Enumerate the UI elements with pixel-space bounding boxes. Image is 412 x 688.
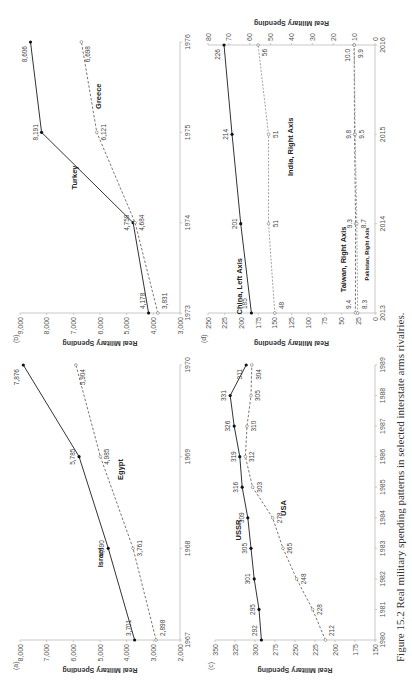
data-point [229,394,232,397]
data-point [155,639,158,642]
series-name-label: Taiwan, Right Axis [339,226,348,292]
y-tick-label: 350 [212,644,219,656]
y-tick-label: 8,000 [17,644,24,662]
y-axis-title: Real Military Spending [254,339,329,347]
y-tick-label: 200 [332,644,339,656]
y-tick-label: 7,000 [43,644,50,662]
data-point [230,133,233,136]
data-point [250,364,253,367]
y-tick-label: 150 [372,644,379,656]
y-tick-label: 225 [221,317,228,329]
data-point [246,516,249,519]
y-tick-label: 5,000 [123,317,130,335]
x-tick-label: 1970 [184,357,191,373]
series-name-label: China, Left Axis [235,258,244,314]
data-point [95,131,98,134]
data-point [77,455,80,458]
data-point [245,363,248,366]
figure-caption: Figure 15.2 Real military spending patte… [394,312,406,662]
data-point [295,577,298,580]
x-tick-label: 1981 [379,602,386,618]
data-value-label: 305 [254,390,261,401]
data-value-label: 9.8 [345,129,352,138]
x-tick-label: 1967 [184,632,191,648]
x-tick-label: 2015 [379,126,386,142]
y-right-tick-label: 60 [246,33,253,41]
data-value-label: 295 [249,604,256,615]
y-tick-label: 3,000 [177,317,184,335]
y-tick-label: 6,000 [70,644,77,662]
data-point [156,312,159,315]
x-tick-label: 1987 [379,418,386,434]
data-value-label: 4,178 [139,292,146,309]
data-point [267,133,270,136]
data-point [132,547,135,550]
y-tick-label: 4,000 [123,644,130,662]
data-value-label: 3,761 [136,540,143,557]
series-name-label: India, Right Axis [286,118,295,176]
x-tick-label: 1976 [184,34,191,50]
data-value-label: 8,606 [21,46,28,63]
figure-15-2: 2,0003,0004,0005,0006,0007,0008,00019671… [0,0,412,688]
data-point [244,455,247,458]
data-point [133,638,136,641]
y-right-tick-label: 70 [225,33,232,41]
data-point [257,608,260,611]
panel-b-turkey-greece: 3,0004,0005,0006,0007,0008,0009,00019731… [12,34,191,347]
data-value-label: 48 [278,301,285,309]
panel-d-china-india-taiwan-pakistan: 0255075100125150175200225250010203040506… [200,19,386,347]
data-value-label: 214 [222,129,229,140]
data-point [324,639,327,642]
data-point [355,222,358,225]
data-value-label: 326 [224,420,231,431]
x-tick-label: 1983 [379,540,386,556]
data-point [250,311,253,314]
series-name-label: Israel [96,548,105,568]
data-value-label: 9.9 [357,49,364,58]
data-value-label: 304 [255,369,262,380]
data-point [107,547,110,550]
data-value-label: 4,684 [138,214,145,231]
series-line [230,365,261,640]
data-point [239,222,242,225]
panel-tag: (b) [12,334,20,343]
data-point [273,312,276,315]
data-value-label: 248 [300,573,307,584]
data-value-label: 9.5 [358,129,365,138]
x-tick-label: 1980 [379,632,386,648]
data-value-label: 310 [250,420,257,431]
data-value-label: 10.0 [344,49,351,62]
data-value-label: 5,785 [69,448,76,465]
y-tick-label: 8,000 [43,317,50,335]
data-point [257,44,260,47]
data-value-label: 8.7 [360,219,367,228]
x-tick-label: 1975 [184,124,191,140]
data-point [271,516,274,519]
data-value-label: 301 [244,573,251,584]
data-value-label: 303 [256,481,263,492]
y-right-tick-label: 30 [309,33,316,41]
data-point [251,486,254,489]
data-point [74,364,77,367]
data-value-label: 228 [316,604,323,615]
x-tick-label: 1968 [184,540,191,556]
series-line [76,365,156,640]
data-value-label: 292 [251,625,258,636]
data-point [29,40,32,43]
panel-c-ussr-usa: 1501752002252502753003253501980198119821… [207,357,386,674]
y-tick-label: 250 [292,644,299,656]
data-value-label: 201 [231,218,238,229]
data-value-label: 4,758 [123,214,130,231]
data-point [99,455,102,458]
data-value-label: 312 [248,451,255,462]
data-value-label: 212 [328,625,335,636]
y-axis-title: Real Military Spending [62,339,137,347]
data-value-label: 6,121 [100,124,107,141]
panel-tag: (a) [12,661,20,670]
data-point [246,425,249,428]
y-tick-label: 175 [255,317,262,329]
data-value-label: 8.3 [361,300,368,309]
data-point [282,547,285,550]
data-value-label: 331 [220,390,227,401]
data-value-label: 9.4 [345,300,352,309]
